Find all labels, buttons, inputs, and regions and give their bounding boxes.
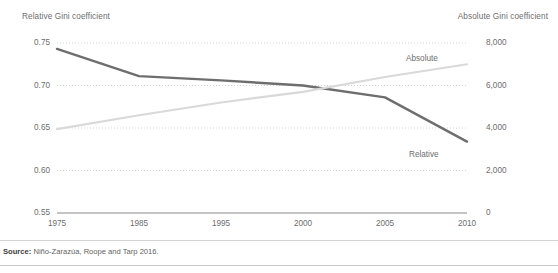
series-label-relative: Relative	[409, 150, 439, 159]
footer-divider-bottom	[0, 265, 558, 266]
x-axis-tick-label: 2005	[376, 219, 394, 228]
x-axis-tick-label: 1985	[130, 219, 148, 228]
x-axis-tick-label: 2000	[294, 219, 312, 228]
x-axis-tick-label: 1995	[212, 219, 230, 228]
source-citation: Niño-Zarazúa, Roope and Tarp 2016.	[33, 247, 158, 256]
plot-area	[57, 43, 467, 213]
series-label-absolute: Absolute	[406, 54, 438, 63]
footer-divider-top	[0, 240, 558, 241]
source-label: Source:	[3, 247, 31, 256]
x-axis-tick-label: 1975	[48, 219, 66, 228]
plot-svg	[57, 43, 467, 213]
chart-figure: Relative Gini coefficient Absolute Gini …	[0, 0, 558, 273]
x-axis-tick-label: 2010	[458, 219, 476, 228]
series-line-absolute	[57, 64, 467, 129]
source-note: Source: Niño-Zarazúa, Roope and Tarp 201…	[3, 247, 159, 256]
